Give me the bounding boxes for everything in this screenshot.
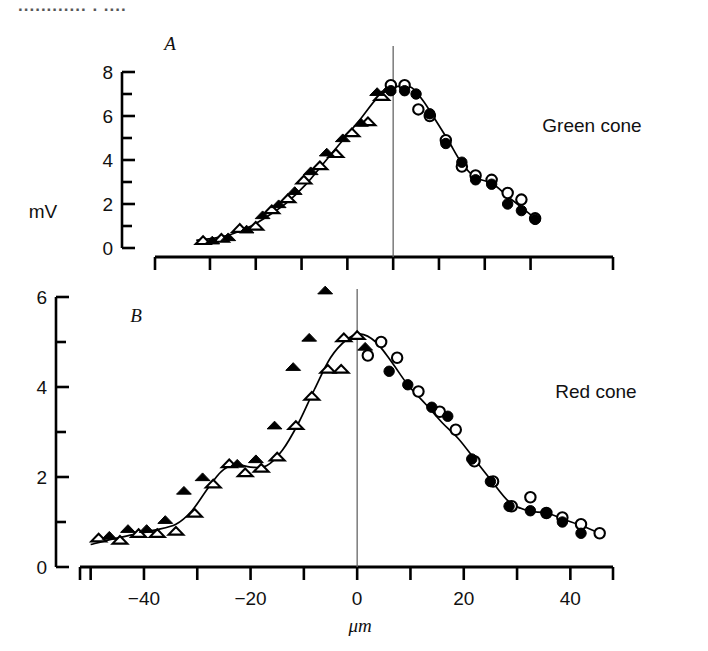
data-point-open-triangle [169,527,184,535]
data-point-filled-circle [502,199,512,209]
data-point-filled-circle [386,86,396,96]
series-filled-triangle [205,84,396,244]
data-point-filled-triangle [302,333,317,341]
data-point-filled-circle [541,508,551,518]
series-open-triangle [196,92,389,244]
data-point-filled-circle [425,109,435,119]
data-point-open-circle [392,353,402,363]
data-point-filled-circle [427,402,437,412]
data-point-filled-circle [384,366,394,376]
data-point-filled-circle [457,157,467,167]
panel-b-group: 0246−40−2002040 [36,286,613,609]
y-tick-label: 0 [36,557,47,578]
data-point-filled-triangle [318,286,333,294]
data-point-filled-circle [441,138,451,148]
data-point-filled-circle [516,205,526,215]
panel-b-cone-label: Red cone [555,381,636,402]
data-point-open-triangle [304,392,319,400]
data-point-filled-circle [576,528,586,538]
figure-text-group: ABmVμmGreen coneRed cone [29,33,642,636]
fit-curve [196,86,535,241]
x-tick-label: −20 [234,588,266,609]
x-tick-label: 0 [352,588,363,609]
data-point-open-circle [376,337,386,347]
data-point-filled-circle [470,175,480,185]
data-point-filled-circle [443,411,453,421]
data-point-open-circle [525,492,535,502]
data-point-open-circle [502,188,512,198]
x-tick-label: 20 [453,588,474,609]
data-point-open-circle [413,104,423,114]
x-tick-label: −40 [128,588,160,609]
data-point-filled-circle [411,89,421,99]
data-point-filled-circle [557,517,567,527]
panel-b-id: B [130,305,142,326]
series-filled-triangle [102,286,373,539]
x-axis-title: μm [348,615,372,636]
y-tick-label: 8 [102,62,113,83]
data-point-filled-triangle [286,363,301,371]
data-point-open-circle [451,425,461,435]
y-tick-label: 0 [102,238,113,259]
data-point-open-triangle [320,365,335,373]
y-tick-label: 2 [36,467,47,488]
data-point-open-triangle [296,176,311,184]
data-point-filled-circle [504,501,514,511]
data-point-filled-triangle [121,525,136,533]
data-point-filled-circle [530,214,540,224]
figure-root: ............ . .... 02468 0246−40−200204… [0,0,708,651]
y-tick-label: 6 [102,106,113,127]
cropped-header-text: ............ . .... [18,0,268,11]
data-point-filled-triangle [248,455,263,463]
panel-a-id: A [162,33,176,54]
data-point-open-circle [516,194,526,204]
data-point-filled-triangle [102,531,117,539]
y-tick-label: 2 [102,194,113,215]
data-point-open-triangle [334,365,349,373]
data-point-filled-triangle [358,342,373,350]
data-point-filled-triangle [139,525,154,533]
series-open-triangle [91,331,364,543]
panel-a-group: 02468 [102,46,613,270]
data-point-filled-triangle [195,473,210,481]
data-point-open-triangle [270,453,285,461]
data-point-open-triangle [288,421,303,429]
data-point-filled-circle [467,454,477,464]
data-point-filled-triangle [267,421,282,429]
data-point-filled-circle [525,506,535,516]
y-tick-label: 4 [36,377,47,398]
data-point-filled-triangle [177,486,192,494]
panel-a-cone-label: Green cone [542,115,641,136]
y-tick-label: 4 [102,150,113,171]
data-point-filled-circle [485,476,495,486]
data-point-filled-circle [403,380,413,390]
data-point-open-circle [363,350,373,360]
data-point-filled-triangle [158,516,173,524]
data-point-open-triangle [345,128,360,136]
x-tick-label: 40 [560,588,581,609]
data-point-open-circle [594,528,604,538]
series-open-circle [386,80,541,224]
data-point-open-triangle [238,468,253,476]
data-point-open-circle [413,386,423,396]
y-axis-title: mV [29,201,58,222]
y-tick-label: 6 [36,287,47,308]
data-point-filled-circle [486,179,496,189]
cone-response-figure: 02468 0246−40−2002040 ABmVμmGreen coneRe… [0,0,708,651]
series-open-circle [363,337,605,539]
data-point-filled-circle [399,86,409,96]
